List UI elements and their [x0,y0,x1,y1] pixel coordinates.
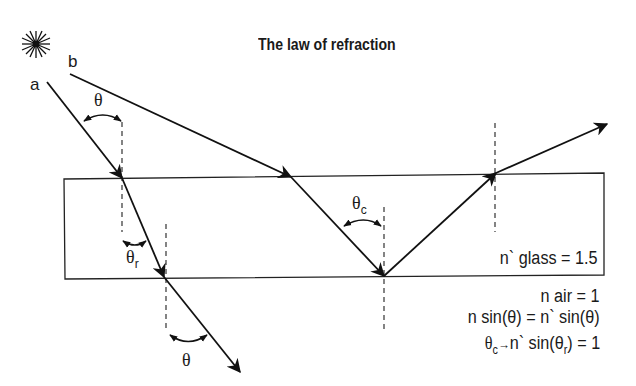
theta-symbol: θ [352,193,361,213]
refraction-diagram [0,0,636,386]
arrow-right-icon: → [498,337,510,352]
incident-angle-label: θ [94,90,103,111]
subscript-c: c [361,203,367,217]
theta-symbol: θ [485,333,493,353]
ray-a [47,82,240,372]
subscript-r: r [564,343,568,357]
normal-lines [122,122,495,332]
ray-a-label: a [30,75,39,95]
critical-angle-equation: θc→n` sin(θr) = 1 [485,333,600,354]
critical-angle-label: θc [352,193,367,214]
refracted-angle-label: θr [126,247,139,268]
light-source-icon [22,31,50,58]
critical-equation-end: ) = 1 [567,333,600,353]
refracted-angle-arc [123,241,146,245]
exit-angle-arc [170,335,207,342]
ray-b-label: b [68,52,77,72]
subscript-r: r [135,257,139,271]
incident-angle-arc [84,115,121,121]
theta-symbol: θ [126,247,135,267]
air-index-label: n air = 1 [541,286,600,307]
snell-equation: n sin(θ) = n` sin(θ) [468,307,600,328]
exit-angle-label: θ [182,350,191,371]
subscript-c: c [492,343,497,357]
critical-equation-body: n` sin(θ [509,333,563,353]
diagram-title: The law of refraction [258,36,396,54]
glass-index-label: n` glass = 1.5 [500,248,598,269]
critical-angle-arc [344,220,381,226]
